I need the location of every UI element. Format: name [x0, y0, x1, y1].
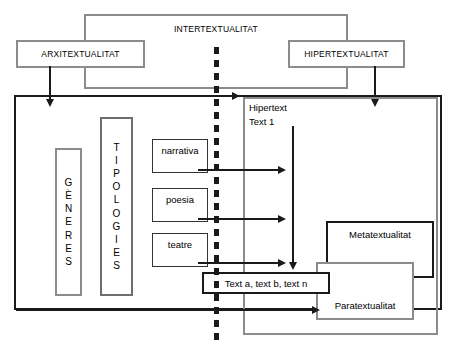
- box-arxitextualitat: ARXITEXTUALITAT: [16, 40, 145, 68]
- box-generes: G È N E R E S: [55, 148, 82, 296]
- arrow-narrativa-line: [198, 169, 280, 171]
- tipologies-letter: I: [115, 154, 118, 167]
- box-hipertextualitat-label: HIPERTEXTUALITAT: [304, 49, 388, 59]
- generes-letter: È: [65, 189, 72, 202]
- box-poesia-label: poesia: [153, 194, 207, 205]
- generes-letter: E: [65, 242, 72, 255]
- tipologies-letter: T: [113, 141, 119, 154]
- divider-dashed-vertical: [214, 47, 219, 345]
- tipologies-letter: P: [113, 167, 120, 180]
- tipologies-letter: S: [113, 259, 120, 272]
- tipologies-letter: L: [114, 193, 120, 206]
- arrow-narrativa-head: [278, 166, 286, 174]
- generes-letter: E: [65, 215, 72, 228]
- box-text-list-label: Text a, text b, text n: [225, 278, 307, 289]
- arrow-top-frame-head: [232, 92, 240, 100]
- box-intertextualitat-label: INTERTEXTUALITAT: [86, 24, 346, 34]
- box-poesia: poesia: [152, 188, 208, 222]
- box-text-list: Text a, text b, text n: [202, 272, 330, 294]
- arrow-teatre-head: [278, 259, 286, 267]
- box-hipertextualitat: HIPERTEXTUALITAT: [288, 40, 405, 68]
- tipologies-letter: O: [113, 180, 121, 193]
- generes-letter: N: [65, 202, 72, 215]
- box-teatre-label: teatre: [153, 239, 207, 250]
- arrow-top-frame-line: [16, 95, 238, 97]
- arrow-poesia-line: [198, 218, 280, 220]
- box-narrativa: narrativa: [152, 139, 208, 173]
- generes-letter: S: [65, 255, 72, 268]
- generes-letter: G: [65, 176, 73, 189]
- diagram-canvas: INTERTEXTUALITAT ARXITEXTUALITAT HIPERTE…: [0, 0, 455, 353]
- label-hipertext-text1: Hipertext Text 1: [249, 101, 329, 129]
- generes-letter: R: [65, 229, 72, 242]
- tipologies-letter: I: [115, 233, 118, 246]
- box-tipologies: T I P O L O G I E S: [100, 117, 133, 296]
- arrow-hipertext-down-line: [292, 126, 294, 264]
- arrow-teatre-line: [198, 262, 280, 264]
- arrow-hipertext-down-head: [289, 262, 297, 270]
- tipologies-letter: O: [113, 207, 121, 220]
- tipologies-letter: E: [113, 246, 120, 259]
- box-paratextualitat: Paratextualitat: [316, 262, 414, 320]
- box-paratextualitat-label: Paratextualitat: [318, 300, 412, 311]
- arrow-poesia-head: [278, 215, 286, 223]
- box-narrativa-label: narrativa: [153, 145, 207, 156]
- box-arxitextualitat-label: ARXITEXTUALITAT: [41, 49, 119, 59]
- box-metatextualitat-label: Metatextualitat: [328, 229, 432, 240]
- arrow-to-paratextualitat-line: [16, 309, 316, 311]
- arrow-to-paratextualitat-head: [312, 306, 320, 314]
- tipologies-letter: G: [113, 220, 121, 233]
